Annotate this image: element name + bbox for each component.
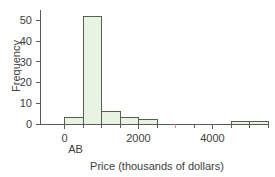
histogram-bar (65, 118, 84, 124)
annotations-group: AB (68, 143, 83, 155)
histogram-bar (120, 118, 139, 124)
y-tick-label: 0 (26, 118, 32, 130)
x-axis-title: Price (thousands of dollars) (90, 160, 224, 172)
ab-annotation: AB (68, 143, 83, 155)
histogram-figure: 01020304050 020004000 AB Price (thousand… (0, 0, 275, 177)
histogram-chart: 01020304050 020004000 AB Price (thousand… (0, 0, 275, 177)
histogram-bar (102, 112, 121, 124)
x-tick-label: 4000 (200, 132, 224, 144)
chart-background (0, 0, 275, 177)
y-axis-title: Frequency (10, 40, 22, 92)
histogram-bar (83, 16, 102, 124)
x-tick-label: 0 (61, 132, 67, 144)
y-tick-label: 50 (20, 14, 32, 26)
histogram-bar (139, 120, 158, 124)
x-tick-label: 2000 (126, 132, 150, 144)
y-tick-label: 10 (20, 97, 32, 109)
